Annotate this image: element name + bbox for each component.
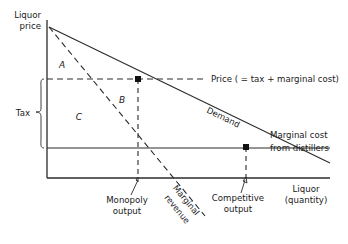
tax-brace <box>36 79 44 148</box>
monopoly-output-label-line1: Monopoly <box>106 195 148 205</box>
tax-bracket-label: Tax <box>15 108 30 118</box>
region-label-b: B <box>119 95 125 105</box>
x-axis-label-line2: (quantity) <box>285 195 328 205</box>
demand-curve-label: Demand <box>205 105 241 129</box>
y-axis-label-line1: Liquor <box>14 10 41 20</box>
region-label-a: A <box>58 60 65 70</box>
monopoly-equilibrium-marker <box>135 76 141 82</box>
x-axis-label-line1: Liquor <box>293 184 320 194</box>
economics-diagram: Liquor price Liquor (quantity) A B C Tax… <box>0 0 348 244</box>
marginal-cost-label-line1: Marginal cost <box>270 130 328 140</box>
competitive-output-label-line2: output <box>224 204 253 214</box>
y-axis-label-line2: price <box>20 21 41 31</box>
competitive-output-label-line1: Competitive <box>212 193 264 203</box>
marginal-cost-label-line2: from distillers <box>270 143 329 153</box>
monopoly-output-pointer <box>131 180 138 195</box>
price-line-label: Price ( = tax + marginal cost) <box>211 74 339 84</box>
monopoly-output-label-line2: output <box>113 206 142 216</box>
competitive-equilibrium-marker <box>243 144 249 150</box>
region-label-c: C <box>76 112 83 122</box>
figure-canvas: Liquor price Liquor (quantity) A B C Tax… <box>0 0 348 244</box>
